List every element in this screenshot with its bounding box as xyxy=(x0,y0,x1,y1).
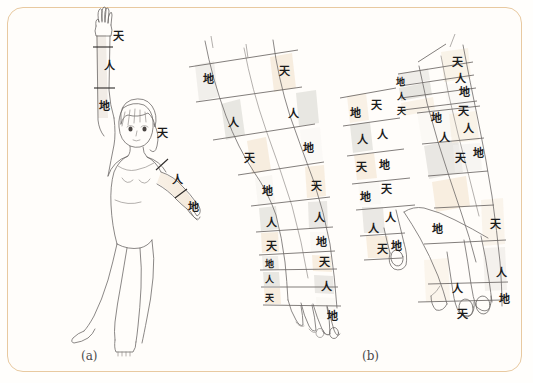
label-a-lower-tian: 天 xyxy=(157,127,169,140)
figure-labels: 天 人 地 天 人 地 地 人 天 地 人 天 地 人 天 天 人 地 天 人 … xyxy=(0,0,533,383)
label-b-forearm-left-0: 地 xyxy=(396,76,405,87)
label-b-forearm-left-4: 人 xyxy=(439,131,451,145)
label-b-front-right-3: 天 xyxy=(311,180,323,193)
label-b-forearm-right-1: 人 xyxy=(455,72,467,86)
label-b-thumb-6: 地 xyxy=(360,190,371,204)
label-b-hand-2: 人 xyxy=(496,266,508,280)
label-b-front-left-1: 人 xyxy=(228,116,240,130)
label-b-thumb-9: 人 xyxy=(368,222,380,236)
label-b-front-left-2: 天 xyxy=(244,152,256,165)
label-b-thumb-5: 地 xyxy=(379,158,390,172)
label-b-thumb-2: 人 xyxy=(357,133,369,147)
label-a-raised-tian: 天 xyxy=(113,30,125,43)
label-b-front-left-7: 人 xyxy=(264,274,275,285)
label-b-front-right-7: 人 xyxy=(321,280,333,294)
label-b-hand-1: 天 xyxy=(490,218,502,231)
label-b-hand-3: 人 xyxy=(452,282,464,296)
label-b-forearm-left-3: 地 xyxy=(431,111,442,125)
label-b-front-left-8: 天 xyxy=(265,293,275,303)
label-b-front-left-3: 地 xyxy=(262,184,273,198)
label-b-forearm-right-5: 地 xyxy=(473,146,484,160)
label-b-hand-0: 地 xyxy=(432,222,443,236)
label-a-lower-ren: 人 xyxy=(172,173,184,187)
label-b-front-right-8: 地 xyxy=(327,309,338,323)
label-b-front-right-4: 人 xyxy=(314,211,326,225)
label-b-front-left-6: 地 xyxy=(265,258,274,269)
label-b-hand-4: 地 xyxy=(499,292,510,306)
label-b-front-right-1: 人 xyxy=(288,107,300,121)
label-b-front-left-5: 天 xyxy=(266,240,278,253)
label-b-hand-5: 天 xyxy=(457,308,469,321)
label-b-forearm-right-4: 人 xyxy=(463,122,475,136)
label-b-thumb-0: 地 xyxy=(350,106,361,120)
label-b-front-right-6: 天 xyxy=(319,256,331,269)
label-b-thumb-11: 地 xyxy=(391,239,402,253)
panel-b-caption: (b) xyxy=(362,349,379,363)
label-b-front-left-0: 地 xyxy=(203,72,214,86)
label-b-forearm-right-2: 地 xyxy=(459,85,470,99)
label-b-thumb-10: 天 xyxy=(377,243,389,256)
label-b-front-left-4: 人 xyxy=(266,216,278,230)
label-a-lower-di: 地 xyxy=(188,200,199,214)
label-b-thumb-7: 天 xyxy=(381,183,393,196)
label-b-forearm-left-2: 天 xyxy=(397,106,407,116)
label-a-raised-di: 地 xyxy=(99,99,110,113)
label-b-front-right-5: 地 xyxy=(316,235,327,249)
figure-root: 天 人 地 天 人 地 地 人 天 地 人 天 地 人 天 天 人 地 天 人 … xyxy=(0,0,533,383)
label-b-forearm-left-5: 天 xyxy=(455,152,467,165)
label-b-thumb-1: 天 xyxy=(371,99,383,112)
label-b-forearm-left-1: 人 xyxy=(396,91,407,102)
label-a-raised-ren: 人 xyxy=(104,59,116,73)
label-b-front-right-0: 天 xyxy=(279,65,291,78)
label-b-thumb-3: 人 xyxy=(377,128,389,142)
label-b-front-right-2: 地 xyxy=(303,141,314,155)
label-b-thumb-8: 人 xyxy=(385,211,397,225)
label-b-forearm-right-3: 天 xyxy=(458,105,470,118)
panel-a-caption: (a) xyxy=(81,349,98,363)
label-b-thumb-4: 天 xyxy=(356,161,368,174)
label-b-forearm-right-0: 天 xyxy=(452,56,464,69)
